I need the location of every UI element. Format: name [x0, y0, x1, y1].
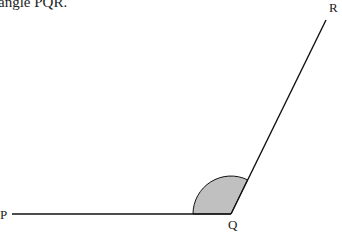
- angle-diagram: P Q R: [0, 0, 342, 232]
- angle-arc-shaded: [193, 176, 248, 214]
- segment-qr: [231, 20, 326, 214]
- label-q: Q: [228, 217, 238, 232]
- label-p: P: [0, 207, 7, 222]
- label-r: R: [329, 0, 338, 15]
